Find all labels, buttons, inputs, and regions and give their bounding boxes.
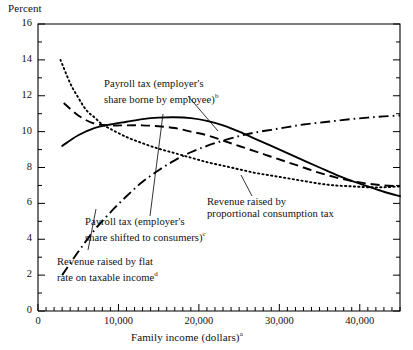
callout-payroll-borne-line1: Payroll tax (employer's (104, 78, 218, 90)
callout-consumption-tax-line2: proportional consumption tax (207, 208, 334, 220)
callout-flat-rate-line2: rate on taxable incomed (57, 268, 158, 284)
y-tick-label: 6 (6, 196, 32, 207)
callout-payroll-shifted-line2-text: share shifted to consumers) (85, 232, 203, 243)
callout-flat-rate: Revenue raised by flat rate on taxable i… (57, 256, 158, 284)
x-tick-label: 0 (12, 315, 64, 326)
callout-payroll-shifted-line1: Payroll tax (employer's (85, 216, 206, 228)
callout-payroll-borne: Payroll tax (employer's share borne by e… (104, 78, 218, 106)
callout-consumption-tax-line1: Revenue raised by (207, 196, 334, 208)
y-tick-label: 8 (6, 161, 32, 172)
callout-flat-rate-line2-text: rate on taxable income (57, 272, 154, 283)
y-tick-label: 12 (6, 89, 32, 100)
x-tick-label: 20,000 (173, 315, 225, 326)
y-tick-label: 4 (6, 232, 32, 243)
curve-dashed (64, 103, 400, 186)
callout-payroll-shifted: Payroll tax (employer's share shifted to… (85, 216, 206, 244)
callout-payroll-borne-line2-text: share borne by employee) (104, 94, 215, 105)
y-tick-label: 16 (6, 17, 32, 28)
curve-solid (62, 117, 400, 196)
figure-container: Percent Family income (dollars)a Payroll… (0, 0, 413, 350)
y-tick-label: 10 (6, 125, 32, 136)
callout-payroll-shifted-note: c (203, 230, 206, 238)
y-tick-label: 14 (6, 53, 32, 64)
callout-payroll-shifted-line2: share shifted to consumers)c (85, 228, 206, 244)
chart-plot-area (0, 0, 413, 350)
x-tick-label: 30,000 (253, 315, 305, 326)
leader-shifted (150, 114, 163, 216)
callout-consumption-tax: Revenue raised by proportional consumpti… (207, 196, 334, 221)
callout-flat-rate-line1: Revenue raised by flat (57, 256, 158, 268)
callout-payroll-borne-note: b (215, 92, 219, 100)
x-tick-label: 10,000 (92, 315, 144, 326)
callout-payroll-borne-line2: share borne by employee)b (104, 90, 218, 106)
y-tick-label: 2 (6, 268, 32, 279)
callout-flat-rate-note: d (154, 270, 158, 278)
leader-consumption (241, 175, 252, 196)
x-tick-label: 40,000 (334, 315, 386, 326)
y-tick-label: 0 (6, 304, 32, 315)
